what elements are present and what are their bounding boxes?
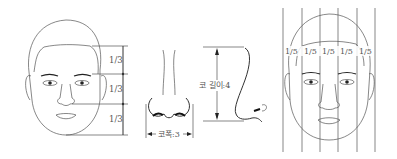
arrow-left-icon (147, 132, 152, 136)
head-outline (28, 20, 100, 135)
mouth (56, 114, 76, 119)
left-eyebrow (302, 73, 320, 75)
thirds-label-middle: 1/3 (109, 84, 123, 94)
tick-marker (122, 73, 124, 75)
arrow-up-icon (215, 48, 219, 55)
nose-profile (235, 48, 262, 122)
face-proportion-diagram: 1/3 1/3 1/3 코폭:3 코 길이:4 (0, 0, 397, 159)
thirds-label-top: 1/3 (109, 55, 123, 65)
left-ear (26, 75, 31, 100)
fifths-label-1: 1/5 (285, 47, 298, 56)
nose-bridge-right (174, 50, 175, 95)
nose-bridge-left (163, 50, 164, 95)
nose-front-panel: 코폭:3 (146, 50, 193, 139)
hairline (34, 45, 98, 74)
left-eyebrow (41, 75, 58, 77)
profile-nostril (254, 109, 260, 111)
nose (58, 84, 75, 106)
head-outline (289, 14, 371, 140)
nose-length-label: 코 길이:4 (199, 80, 230, 90)
thirds-label-bottom: 1/3 (109, 114, 123, 124)
left-pupil (48, 81, 52, 85)
nose-width-label: 코폭:3 (158, 130, 180, 139)
fifths-label-2: 1/5 (304, 47, 317, 56)
face-fifths-panel: 1/5 1/5 1/5 1/5 1/5 (283, 8, 375, 152)
tick-marker (122, 103, 124, 105)
mouth (318, 118, 340, 124)
left-pupil (309, 80, 313, 84)
fifths-label-5: 1/5 (359, 47, 372, 56)
nose-side-panel: 코 길이:4 (198, 47, 267, 122)
right-pupil (345, 80, 349, 84)
right-eyebrow (338, 73, 356, 75)
profile-ear-curl (262, 105, 267, 111)
arrow-right-icon (187, 132, 192, 136)
right-pupil (80, 81, 84, 85)
face-thirds-panel: 1/3 1/3 1/3 (26, 20, 128, 135)
arrow-down-icon (215, 113, 219, 120)
nose (319, 84, 340, 110)
right-eyebrow (74, 75, 91, 77)
fifths-label-3: 1/5 (322, 47, 335, 56)
right-ear (101, 75, 106, 100)
fifths-label-4: 1/5 (340, 47, 353, 56)
